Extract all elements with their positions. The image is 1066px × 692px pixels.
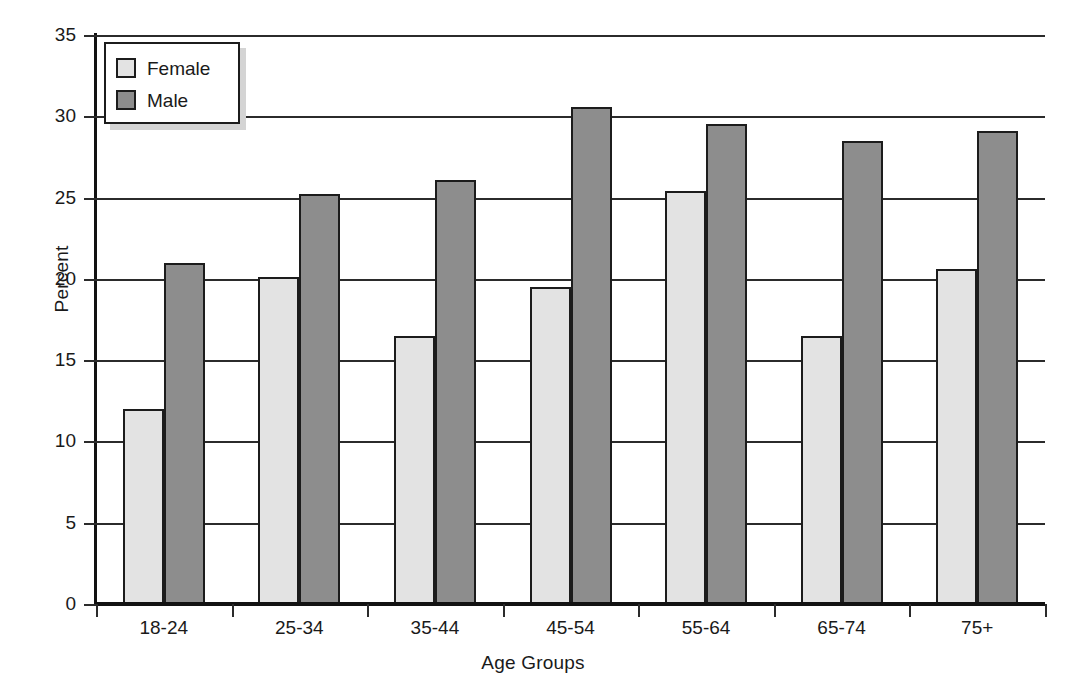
y-axis-tick-mark — [84, 441, 97, 443]
x-axis-line — [94, 602, 1045, 606]
x-axis-category-label: 75+ — [907, 617, 1047, 639]
bar-male-18-24 — [164, 263, 205, 604]
bar-female-25-34 — [258, 277, 299, 604]
x-axis-tick-mark — [503, 604, 505, 617]
y-axis-tick-mark — [84, 523, 97, 525]
x-axis-category-label: 55-64 — [636, 617, 776, 639]
bar-female-18-24 — [123, 409, 164, 604]
legend-swatch-male-icon — [116, 90, 136, 110]
y-axis-tick-mark — [84, 198, 97, 200]
bar-male-45-54 — [571, 107, 612, 604]
legend-label-female: Female — [147, 59, 210, 78]
x-axis-tick-mark — [909, 604, 911, 617]
bar-male-25-34 — [299, 194, 340, 604]
x-axis-tick-mark — [774, 604, 776, 617]
y-axis-tick-label: 10 — [14, 431, 76, 450]
bar-male-75+ — [977, 131, 1018, 604]
y-axis-tick-label: 25 — [14, 188, 76, 207]
x-axis-tick-mark — [1045, 604, 1047, 617]
y-axis-tick-mark — [84, 279, 97, 281]
x-axis-category-label: 25-34 — [229, 617, 369, 639]
y-axis-tick-label: 5 — [14, 513, 76, 532]
x-axis-category-label: 65-74 — [772, 617, 912, 639]
x-axis-category-label: 18-24 — [94, 617, 234, 639]
bar-male-65-74 — [842, 141, 883, 604]
y-axis-tick-mark — [84, 360, 97, 362]
bar-female-45-54 — [530, 287, 571, 604]
bar-male-35-44 — [435, 180, 476, 604]
x-axis-category-label: 35-44 — [365, 617, 505, 639]
x-axis-tick-mark — [96, 604, 98, 617]
bar-female-75+ — [936, 269, 977, 604]
x-axis-tick-mark — [232, 604, 234, 617]
gridline — [96, 35, 1045, 37]
y-axis-tick-label: 30 — [14, 106, 76, 125]
x-axis-tick-mark — [367, 604, 369, 617]
legend-item-male: Male — [116, 84, 238, 116]
y-axis-tick-label: 35 — [14, 25, 76, 44]
x-axis-title: Age Groups — [0, 652, 1066, 674]
bar-chart: Percent Female Male Age Groups 051015202… — [0, 0, 1066, 692]
chart-legend: Female Male — [104, 42, 240, 124]
y-axis-tick-mark — [84, 116, 97, 118]
y-axis-tick-label: 20 — [14, 269, 76, 288]
y-axis-tick-label: 0 — [14, 594, 76, 613]
x-axis-category-label: 45-54 — [501, 617, 641, 639]
y-axis-line — [94, 33, 97, 606]
bar-male-55-64 — [706, 124, 747, 604]
x-axis-tick-mark — [638, 604, 640, 617]
legend-swatch-female-icon — [116, 58, 136, 78]
y-axis-tick-label: 15 — [14, 350, 76, 369]
bar-female-55-64 — [665, 191, 706, 604]
bar-female-35-44 — [394, 336, 435, 604]
y-axis-tick-mark — [84, 35, 97, 37]
legend-label-male: Male — [147, 91, 188, 110]
legend-item-female: Female — [116, 52, 238, 84]
bar-female-65-74 — [801, 336, 842, 604]
